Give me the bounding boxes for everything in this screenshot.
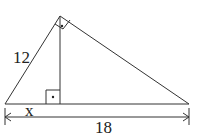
label-x: x [25,101,34,120]
right-angle-dot-apex [61,25,63,27]
right-angle-dot-foot [52,96,54,98]
label-18: 18 [95,118,112,137]
triangle [5,16,189,104]
geometry-diagram: 12 x 18 [0,0,201,138]
label-12: 12 [13,48,30,67]
